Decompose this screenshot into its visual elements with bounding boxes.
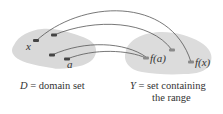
point-x [33, 39, 39, 42]
label-x: x [26, 40, 31, 52]
codomain-caption: Y = set containing the range [130, 80, 206, 104]
codomain-caption-line2: the range [130, 92, 191, 103]
point-fx [188, 61, 194, 64]
label-fa: f(a) [150, 52, 166, 64]
point-unlabeled-2 [49, 54, 55, 57]
domain-caption: D = domain set [20, 80, 85, 91]
codomain-set-blob [125, 32, 212, 74]
point-unlabeled-image [169, 49, 175, 52]
function-mapping-diagram: x a f(a) f(x) D = domain set Y = set con… [0, 0, 223, 114]
domain-caption-var: D [20, 80, 28, 91]
label-fx: f(x) [195, 56, 210, 68]
point-fa [143, 57, 149, 60]
label-a: a [67, 58, 73, 70]
codomain-caption-line1: = set containing [138, 80, 205, 91]
domain-caption-text: = domain set [30, 80, 84, 91]
point-unlabeled-1 [51, 34, 57, 37]
codomain-caption-var: Y [130, 80, 136, 91]
